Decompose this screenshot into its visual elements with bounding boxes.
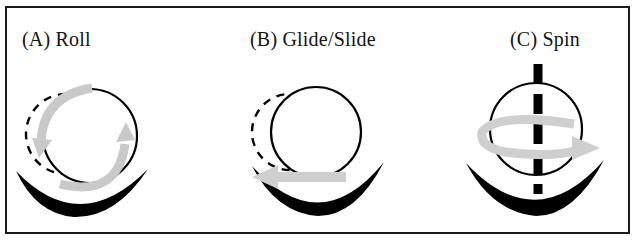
roll-svg: [8, 66, 228, 226]
arthrokinematics-figure: (A) Roll: [0, 0, 637, 242]
panel-spin: (C) Spin: [448, 0, 633, 242]
panel-label-roll: (A) Roll: [22, 28, 91, 51]
ball-glide: [271, 87, 361, 177]
panel-label-glide-slide: (B) Glide/Slide: [250, 28, 376, 51]
panel-glide-slide: (B) Glide/Slide: [228, 0, 448, 242]
roll-diagram: [8, 66, 228, 226]
panel-label-spin: (C) Spin: [510, 28, 580, 51]
spin-svg: [448, 66, 633, 226]
spin-diagram: [448, 66, 633, 226]
glide-slide-svg: [228, 66, 448, 226]
glide-slide-diagram: [228, 66, 448, 226]
panel-roll: (A) Roll: [8, 0, 228, 242]
